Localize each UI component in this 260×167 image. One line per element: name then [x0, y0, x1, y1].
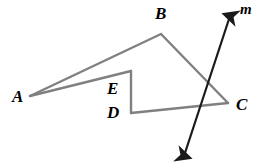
- geometry-canvas: [0, 0, 260, 167]
- vertex-label-c: C: [236, 96, 247, 113]
- vertex-label-d: D: [107, 104, 119, 121]
- inner-polyline-aedc: [30, 71, 228, 113]
- triangle-outline: [30, 34, 228, 103]
- line-label-m: m: [240, 2, 252, 17]
- transversal-line-m: [184, 16, 230, 156]
- vertex-label-a: A: [12, 88, 23, 105]
- segment-bc: [161, 34, 228, 103]
- vertex-label-b: B: [155, 5, 166, 22]
- segment-dc: [131, 103, 228, 113]
- vertex-label-e: E: [107, 80, 118, 97]
- geometry-figure: A B C E D m: [0, 0, 260, 167]
- segment-ab: [30, 34, 161, 96]
